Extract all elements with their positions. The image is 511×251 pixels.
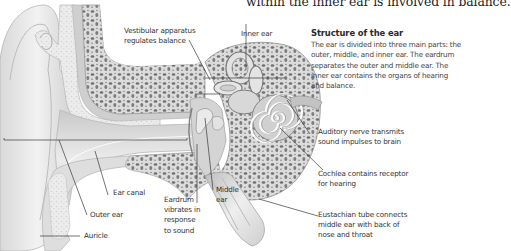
label-vestibular-apparatus: Vestibular apparatus regulates balance bbox=[124, 26, 196, 46]
label-eardrum: Eardrum vibrates in response to sound bbox=[164, 195, 200, 236]
label-ear-canal: Ear canal bbox=[113, 188, 145, 198]
info-title: Structure of the ear bbox=[311, 28, 403, 38]
label-middle-ear: Middle ear bbox=[216, 185, 239, 205]
label-eustachian-tube: Eustachian tube connects middle ear with… bbox=[318, 210, 407, 241]
info-body: The ear is divided into three main parts… bbox=[311, 40, 463, 91]
label-auditory-nerve: Auditory nerve transmits sound impulses … bbox=[318, 127, 404, 147]
label-inner-ear: Inner ear bbox=[241, 29, 272, 39]
label-outer-ear: Outer ear bbox=[90, 210, 123, 220]
label-auricle: Auricle bbox=[84, 231, 108, 241]
label-cochlea: Cochlea contains receptor for hearing bbox=[318, 169, 408, 189]
